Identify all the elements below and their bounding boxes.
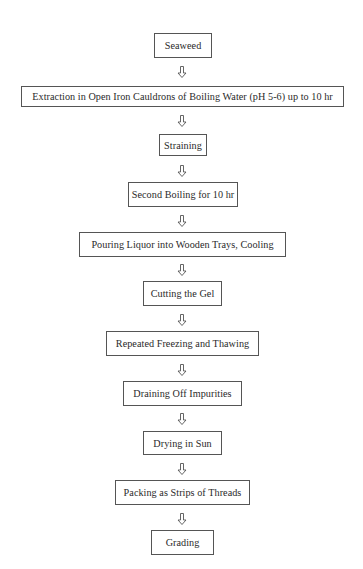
step-seaweed: Seaweed <box>154 33 212 58</box>
step-label: Grading <box>166 537 200 548</box>
step-draining-impurities: Draining Off Impurities <box>123 381 242 406</box>
down-arrow-icon <box>176 364 188 376</box>
down-arrow-icon <box>176 264 188 276</box>
step-grading: Grading <box>151 530 214 555</box>
down-arrow-icon <box>176 314 188 326</box>
flowchart: Seaweed Extraction in Open Iron Cauldron… <box>0 0 363 569</box>
step-label: Drying in Sun <box>153 438 211 449</box>
step-label: Cutting the Gel <box>151 288 215 299</box>
step-label: Straining <box>164 140 202 151</box>
step-freezing-thawing: Repeated Freezing and Thawing <box>106 331 259 356</box>
step-label: Draining Off Impurities <box>133 388 231 399</box>
step-packing-strips: Packing as Strips of Threads <box>115 480 250 505</box>
step-pouring-liquor: Pouring Liquor into Wooden Trays, Coolin… <box>79 232 286 257</box>
down-arrow-icon <box>176 165 188 177</box>
step-label: Seaweed <box>165 40 202 51</box>
down-arrow-icon <box>176 513 188 525</box>
down-arrow-icon <box>176 215 188 227</box>
step-straining: Straining <box>159 134 207 156</box>
step-label: Repeated Freezing and Thawing <box>116 338 249 349</box>
step-extraction: Extraction in Open Iron Cauldrons of Boi… <box>21 86 344 107</box>
step-second-boiling: Second Boiling for 10 hr <box>128 182 238 207</box>
down-arrow-icon <box>176 115 188 127</box>
step-label: Pouring Liquor into Wooden Trays, Coolin… <box>91 239 273 250</box>
step-drying-sun: Drying in Sun <box>143 431 222 455</box>
step-label: Extraction in Open Iron Cauldrons of Boi… <box>32 91 332 102</box>
step-cutting-gel: Cutting the Gel <box>143 281 222 306</box>
step-label: Packing as Strips of Threads <box>124 487 242 498</box>
down-arrow-icon <box>176 66 188 78</box>
down-arrow-icon <box>176 463 188 475</box>
step-label: Second Boiling for 10 hr <box>132 189 235 200</box>
down-arrow-icon <box>176 413 188 425</box>
